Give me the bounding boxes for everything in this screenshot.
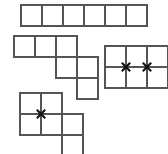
descending-staircase-6 bbox=[13, 35, 99, 100]
horizontal-strip-6-svg bbox=[20, 4, 148, 27]
grid-cell bbox=[84, 5, 105, 26]
grid-cell bbox=[63, 5, 84, 26]
grid-cell bbox=[105, 5, 126, 26]
staircase-6-marked-svg bbox=[19, 92, 84, 154]
grid-cell bbox=[62, 135, 83, 154]
figure-canvas bbox=[0, 0, 168, 154]
grid-cell bbox=[56, 57, 77, 78]
staircase-6-marked bbox=[19, 92, 84, 154]
grid-cell bbox=[126, 5, 147, 26]
grid-cell bbox=[14, 36, 35, 57]
descending-staircase-6-svg bbox=[13, 35, 99, 100]
grid-cell bbox=[56, 36, 77, 57]
grid-cell bbox=[21, 5, 42, 26]
rectangle-3x2-marked-svg bbox=[104, 45, 168, 89]
rectangle-3x2-marked bbox=[104, 45, 168, 89]
grid-cell bbox=[62, 114, 83, 135]
grid-cell bbox=[35, 36, 56, 57]
grid-cell bbox=[42, 5, 63, 26]
grid-cell bbox=[77, 57, 98, 78]
horizontal-strip-6 bbox=[20, 4, 148, 27]
